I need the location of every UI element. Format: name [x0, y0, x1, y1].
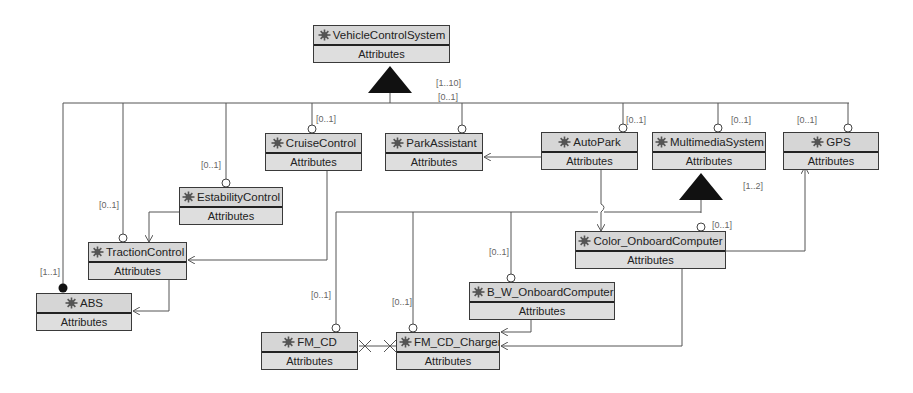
feature-attributes: Attributes	[542, 153, 637, 169]
feature-fmcd[interactable]: FM_CDAttributes	[261, 332, 358, 370]
feature-name: AutoPark	[542, 133, 637, 153]
cardinality-label: [0..1]	[311, 290, 331, 300]
gear-puzzle-icon	[558, 136, 571, 148]
gear-puzzle-icon	[472, 286, 485, 298]
gear-puzzle-icon	[271, 137, 284, 149]
feature-name-text: FM_CD	[297, 336, 337, 348]
feature-attributes: Attributes	[576, 252, 725, 268]
feature-model-diagram: VehicleControlSystemAttributesCruiseCont…	[0, 0, 913, 393]
feature-name: MultimediaSystem	[653, 133, 765, 153]
gear-puzzle-icon	[655, 136, 668, 148]
gear-puzzle-icon	[282, 336, 295, 348]
feature-name: CruiseControl	[266, 134, 361, 154]
feature-fmch[interactable]: FM_CD_ChargerAttributes	[396, 332, 500, 370]
gear-puzzle-icon	[182, 191, 195, 203]
feature-name-text: Color_OnboardComputer	[593, 235, 722, 247]
gear-puzzle-icon	[65, 297, 78, 309]
feature-name: GPS	[784, 133, 878, 153]
gear-puzzle-icon	[399, 336, 412, 348]
req-auto-color	[601, 166, 604, 231]
feature-abs[interactable]: ABSAttributes	[36, 293, 132, 331]
feature-name: FM_CD_Charger	[397, 333, 499, 353]
req-color-gps	[726, 167, 805, 251]
feature-attributes: Attributes	[470, 303, 614, 319]
feature-attributes: Attributes	[397, 353, 499, 369]
gear-puzzle-icon	[811, 136, 824, 148]
feature-name: EstabilityControl	[180, 188, 282, 208]
alternative-group-triangle-root	[368, 66, 412, 93]
feature-cruise[interactable]: CruiseControlAttributes	[265, 133, 362, 171]
feature-auto[interactable]: AutoParkAttributes	[541, 132, 638, 170]
feature-attributes: Attributes	[386, 154, 482, 170]
cardinality-label: [0..1]	[712, 220, 732, 230]
alternative-group-triangle-mm	[679, 173, 723, 200]
gear-puzzle-icon	[91, 246, 104, 258]
feature-attributes: Attributes	[37, 314, 131, 330]
feature-name: B_W_OnboardComputer	[470, 283, 614, 303]
req-trac-abs	[133, 276, 169, 311]
feature-name-text: MultimediaSystem	[670, 136, 764, 148]
feature-vcs[interactable]: VehicleControlSystemAttributes	[313, 25, 450, 63]
feature-name-text: FM_CD_Charger	[414, 336, 499, 348]
feature-mm[interactable]: MultimediaSystemAttributes	[652, 132, 766, 170]
cardinality-label: [0..1]	[797, 115, 817, 125]
feature-trac[interactable]: TractionControlAttributes	[88, 242, 187, 280]
gear-puzzle-icon	[318, 29, 331, 41]
cardinality-label: [0..1]	[316, 114, 336, 124]
cardinality-label: [0..1]	[626, 115, 646, 125]
feature-name-text: ParkAssistant	[406, 137, 476, 149]
cardinality-label: [0..1]	[201, 160, 221, 170]
feature-bw[interactable]: B_W_OnboardComputerAttributes	[469, 282, 615, 320]
feature-attributes: Attributes	[266, 154, 361, 170]
feature-name-text: ABS	[80, 297, 103, 309]
feature-attributes: Attributes	[784, 153, 878, 169]
cardinality-label: [1..10]	[436, 78, 461, 88]
req-esta-trac	[149, 212, 179, 242]
cardinality-label: [0..1]	[489, 247, 509, 257]
cardinality-label: [0..1]	[438, 92, 458, 102]
feature-name: ParkAssistant	[386, 134, 482, 154]
feature-name-text: GPS	[826, 136, 850, 148]
feature-park[interactable]: ParkAssistantAttributes	[385, 133, 483, 171]
feature-name: FM_CD	[262, 333, 357, 353]
gear-puzzle-icon	[578, 235, 591, 247]
cardinality-label: [0..1]	[99, 200, 119, 210]
feature-name-text: CruiseControl	[286, 137, 356, 149]
feature-name-text: VehicleControlSystem	[333, 29, 446, 41]
feature-attributes: Attributes	[180, 208, 282, 224]
gear-puzzle-icon	[391, 137, 404, 149]
feature-name-text: AutoPark	[573, 136, 620, 148]
feature-attributes: Attributes	[314, 46, 449, 62]
cardinality-label: [0..1]	[392, 297, 412, 307]
feature-color[interactable]: Color_OnboardComputerAttributes	[575, 231, 726, 269]
feature-name: TractionControl	[89, 243, 186, 263]
feature-esta[interactable]: EstabilityControlAttributes	[179, 187, 283, 225]
feature-gps[interactable]: GPSAttributes	[783, 132, 879, 170]
feature-attributes: Attributes	[653, 153, 765, 169]
feature-attributes: Attributes	[262, 353, 357, 369]
feature-name: Color_OnboardComputer	[576, 232, 725, 252]
cardinality-label: [0..1]	[731, 115, 751, 125]
feature-name-text: B_W_OnboardComputer	[487, 286, 614, 298]
feature-attributes: Attributes	[89, 263, 186, 279]
mandatory-circle-abs	[59, 284, 68, 293]
feature-name-text: EstabilityControl	[197, 191, 280, 203]
feature-name: VehicleControlSystem	[314, 26, 449, 46]
cardinality-label: [1..1]	[40, 267, 60, 277]
feature-name-text: TractionControl	[106, 246, 184, 258]
cardinality-label: [1..2]	[743, 181, 763, 191]
feature-name: ABS	[37, 294, 131, 314]
